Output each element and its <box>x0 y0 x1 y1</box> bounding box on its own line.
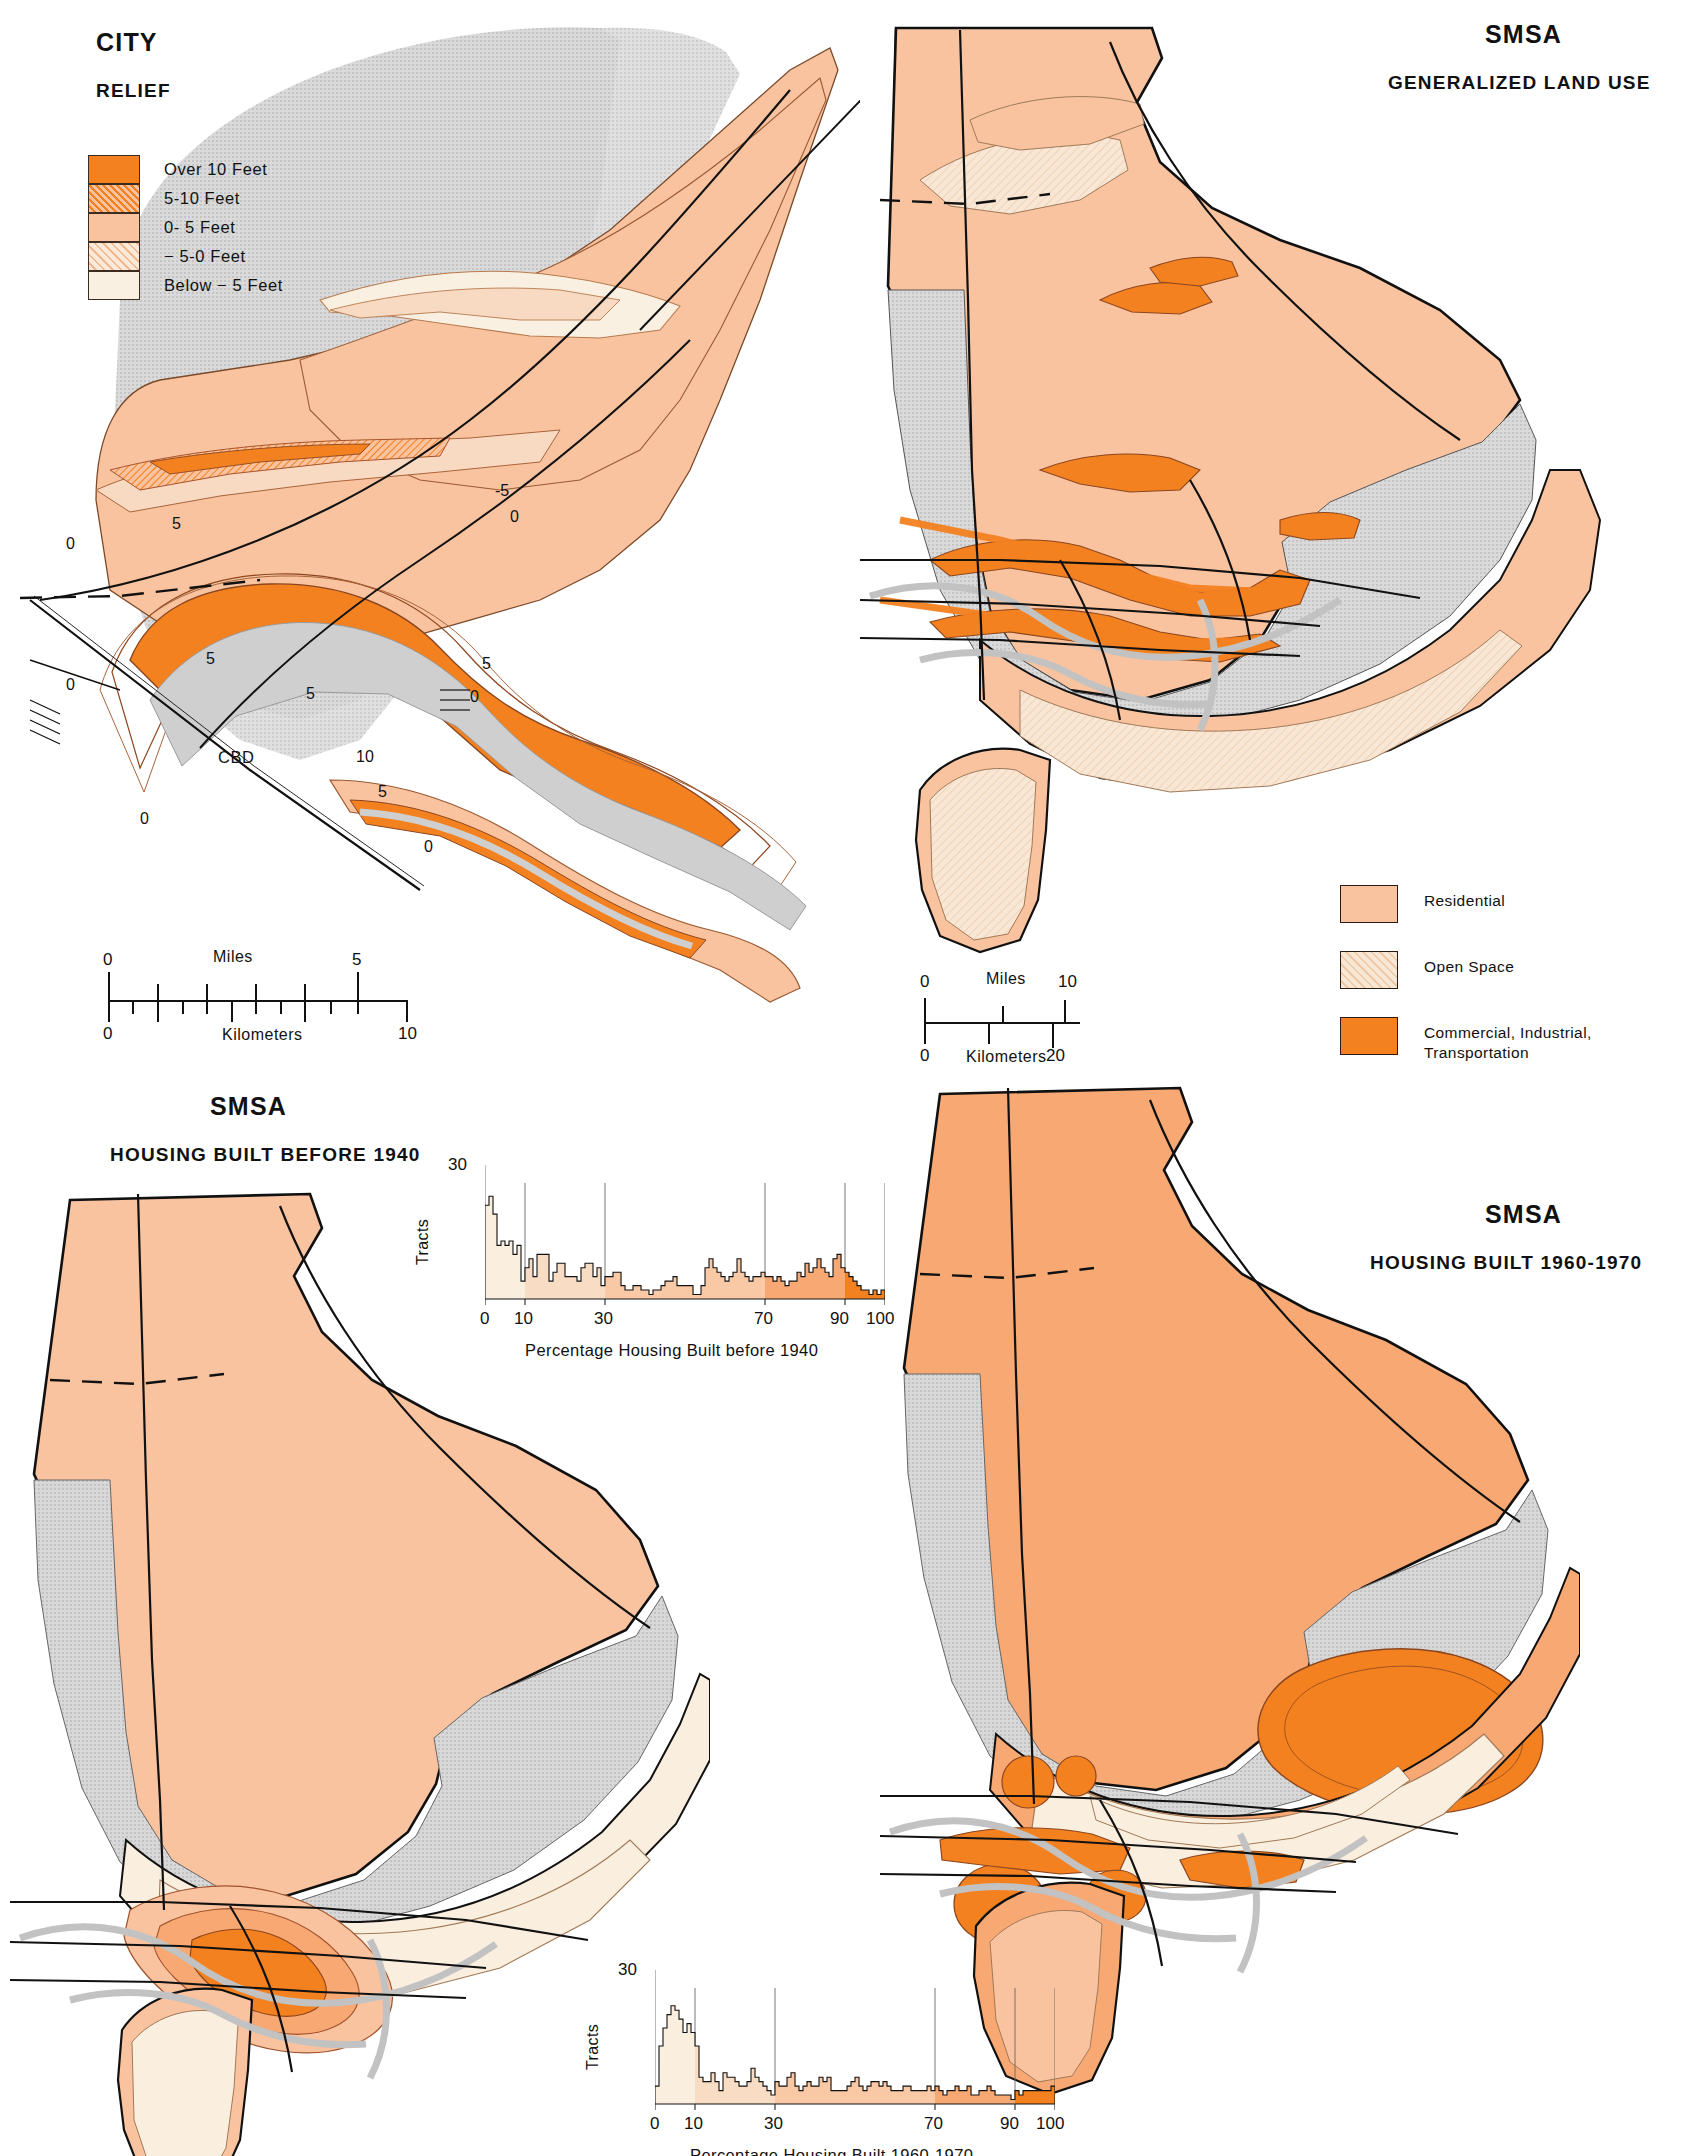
scale-miles-tick: 5 <box>352 950 361 970</box>
scale-tick <box>231 1000 233 1022</box>
scale-tick <box>357 972 359 1002</box>
cbd-label: CBD <box>218 748 254 767</box>
legend-swatch <box>1340 1017 1398 1055</box>
legend-label: − 5-0 Feet <box>164 247 246 266</box>
contour-label: 0 <box>66 676 75 694</box>
legend-swatch <box>1340 885 1398 923</box>
legend-swatch <box>88 213 140 242</box>
contour-label: 0 <box>470 688 479 706</box>
legend-label: 5-10 Feet <box>164 189 240 208</box>
scale-tick <box>157 1000 159 1022</box>
histogram-y-tick: 30 <box>448 1155 467 1175</box>
scale-tick <box>406 1000 408 1022</box>
housing1940-title-main: SMSA <box>210 1092 287 1121</box>
scale-km-label: Kilometers <box>966 1048 1047 1066</box>
histogram-x-tick: 10 <box>684 2114 703 2134</box>
histogram-plot <box>655 1970 1055 2110</box>
histogram-x-tick: 30 <box>764 2114 783 2134</box>
scale-tick <box>182 1000 184 1014</box>
histogram-x-tick: 0 <box>480 1309 489 1329</box>
legend-swatch <box>88 184 140 213</box>
scale-tick <box>255 1000 257 1014</box>
histogram-y-axis-label: Tracts <box>584 2024 602 2070</box>
scale-tick <box>1052 1022 1054 1048</box>
histogram-before-1940: Tracts 30 0 10 30 70 90 100 Percentage H… <box>400 1135 900 1335</box>
histogram-x-axis-label: Percentage Housing Built 1960-1970 <box>690 2146 973 2156</box>
legend-label: Residential <box>1424 885 1505 911</box>
housing1940-title-sub: HOUSING BUILT BEFORE 1940 <box>110 1144 420 1166</box>
contour-label: 0 <box>140 810 149 828</box>
relief-legend: Over 10 Feet 5-10 Feet 0- 5 Feet − 5-0 F… <box>88 155 283 300</box>
contour-label: 5 <box>206 650 215 668</box>
scale-tick <box>924 1022 926 1044</box>
legend-swatch <box>88 242 140 271</box>
scale-km-tick: 10 <box>398 1024 417 1044</box>
legend-item: 5-10 Feet <box>88 184 283 213</box>
scale-tick <box>206 1000 208 1014</box>
contour-label: 5 <box>306 685 315 703</box>
histogram-x-tick: 90 <box>830 1309 849 1329</box>
scale-tick <box>108 972 110 1002</box>
contour-label: 5 <box>378 783 387 801</box>
scale-tick <box>924 998 926 1024</box>
scale-tick <box>1064 1000 1066 1024</box>
scale-tick <box>1002 1006 1004 1024</box>
legend-item: Residential <box>1340 885 1592 923</box>
legend-label: 0- 5 Feet <box>164 218 235 237</box>
histogram-x-tick: 100 <box>1036 2114 1064 2134</box>
contour-label: 0 <box>510 508 519 526</box>
contour-label: -5 <box>495 482 509 500</box>
contour-label: 5 <box>172 515 181 533</box>
legend-swatch <box>1340 951 1398 989</box>
legend-item: Below − 5 Feet <box>88 271 283 300</box>
legend-label: Over 10 Feet <box>164 160 268 179</box>
legend-label: Open Space <box>1424 951 1514 977</box>
contour-label: 5 <box>482 655 491 673</box>
relief-scale-bar: Miles 0 5 0 10 Kilometers <box>0 930 440 1040</box>
contour-label: 10 <box>356 748 374 766</box>
histogram-x-tick: 10 <box>514 1309 533 1329</box>
scale-miles-tick: 0 <box>920 972 929 992</box>
legend-item: Open Space <box>1340 951 1592 989</box>
landuse-legend: Residential Open Space Commercial, Indus… <box>1340 885 1592 1091</box>
legend-swatch <box>88 155 140 184</box>
histogram-plot <box>485 1165 885 1305</box>
legend-item: Commercial, Industrial, Transportation <box>1340 1017 1592 1063</box>
histogram-x-tick: 0 <box>650 2114 659 2134</box>
legend-label: Below − 5 Feet <box>164 276 283 295</box>
scale-km-tick: 20 <box>1046 1046 1065 1066</box>
histogram-x-axis-label: Percentage Housing Built before 1940 <box>525 1341 818 1360</box>
legend-swatch <box>88 271 140 300</box>
histogram-y-axis-label: Tracts <box>414 1219 432 1265</box>
scale-km-tick: 0 <box>103 1024 112 1044</box>
histogram-x-tick: 30 <box>594 1309 613 1329</box>
scale-tick <box>280 1000 282 1014</box>
contour-label: 0 <box>66 535 75 553</box>
panel-city-relief: CITY RELIEF <box>0 0 860 1040</box>
scale-km-label: Kilometers <box>222 1026 303 1044</box>
legend-label: Commercial, Industrial, Transportation <box>1424 1017 1592 1063</box>
histogram-y-tick: 30 <box>618 1960 637 1980</box>
scale-tick <box>988 1022 990 1044</box>
histogram-x-tick: 70 <box>924 2114 943 2134</box>
scale-km-tick: 0 <box>920 1046 929 1066</box>
scale-tick <box>304 1000 306 1022</box>
landuse-scale-bar: Miles 0 10 0 20 Kilometers <box>860 950 1180 1060</box>
scale-axis <box>108 1000 408 1002</box>
scale-miles-tick: 0 <box>103 950 112 970</box>
scale-tick <box>132 1000 134 1014</box>
legend-item: Over 10 Feet <box>88 155 283 184</box>
scale-tick <box>330 1000 332 1014</box>
scale-tick <box>357 1000 359 1014</box>
scale-miles-label: Miles <box>213 948 253 966</box>
contour-label: 0 <box>424 838 433 856</box>
scale-miles-label: Miles <box>986 970 1026 988</box>
scale-tick <box>108 1000 110 1022</box>
legend-item: 0- 5 Feet <box>88 213 283 242</box>
legend-item: − 5-0 Feet <box>88 242 283 271</box>
histogram-1960-1970: Tracts 30 0 10 30 70 90 100 Percentage H… <box>570 1940 1070 2150</box>
histogram-x-tick: 70 <box>754 1309 773 1329</box>
panel-smsa-landuse: SMSA GENERALIZED LAND USE <box>860 0 1700 1070</box>
histogram-x-tick: 90 <box>1000 2114 1019 2134</box>
scale-miles-tick: 10 <box>1058 972 1077 992</box>
